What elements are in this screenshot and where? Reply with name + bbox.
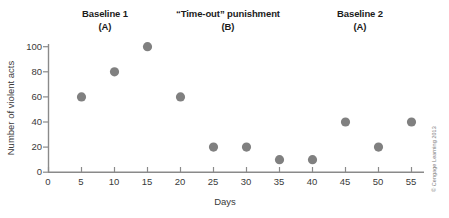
x-tick-label-5: 5 [78,176,83,187]
data-point[interactable] [275,155,284,164]
data-point[interactable] [176,92,185,101]
data-point[interactable] [209,143,218,152]
x-tick-label-25: 25 [208,176,219,187]
data-point[interactable] [110,67,119,76]
x-tick-marks [49,167,412,172]
data-point[interactable] [407,117,416,126]
data-point[interactable] [143,42,152,51]
x-tick-label-15: 15 [142,176,153,187]
x-tick-label-30: 30 [241,176,252,187]
x-tick-label-45: 45 [340,176,351,187]
x-tick-label-35: 35 [274,176,285,187]
x-tick-label-20: 20 [175,176,186,187]
x-tick-label-10: 10 [109,176,120,187]
x-tick-label-40: 40 [307,176,318,187]
data-point[interactable] [77,92,86,101]
x-tick-label-0: 0 [45,176,50,187]
copyright-credit: © Cengage Learning 2013 [428,120,440,198]
chart-figure: Baseline 1 (A) “Time-out” punishment (B)… [0,0,449,218]
data-point-group [77,42,416,164]
copyright-credit-text: © Cengage Learning 2013 [431,126,437,192]
data-point[interactable] [374,143,383,152]
data-point[interactable] [242,143,251,152]
data-point[interactable] [341,117,350,126]
x-tick-label-50: 50 [373,176,384,187]
x-tick-label-55: 55 [406,176,417,187]
data-point[interactable] [308,155,317,164]
y-tick-marks [43,47,48,173]
x-axis-title: Days [214,196,236,207]
